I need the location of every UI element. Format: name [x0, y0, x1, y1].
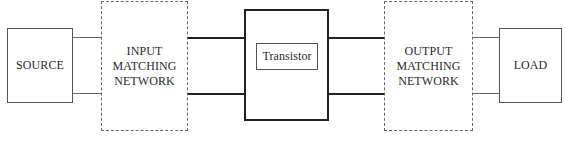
- output-mn-line-2: MATCHING: [396, 59, 460, 74]
- amplifier-block-diagram: SOURCE INPUT MATCHING NETWORK Transistor…: [0, 0, 568, 141]
- wire-output-to-load-top: [472, 37, 500, 38]
- source-label: SOURCE: [16, 58, 64, 73]
- source-block: SOURCE: [7, 28, 73, 103]
- output-mn-line-1: OUTPUT: [396, 44, 460, 59]
- output-mn-line-3: NETWORK: [396, 74, 460, 89]
- wire-output-to-load-bottom: [472, 93, 500, 94]
- transistor-label: Transistor: [262, 49, 311, 64]
- transistor-label-box: Transistor: [256, 43, 318, 70]
- input-matching-network-label: INPUT MATCHING NETWORK: [112, 44, 176, 89]
- load-label: LOAD: [514, 58, 548, 73]
- wire-source-to-input-top: [72, 37, 102, 38]
- transistor-block: Transistor: [244, 9, 329, 121]
- wire-transistor-to-output-top: [328, 37, 385, 39]
- wire-input-to-transistor-bottom: [187, 93, 245, 95]
- input-matching-network-block: INPUT MATCHING NETWORK: [101, 1, 188, 131]
- wire-input-to-transistor-top: [187, 37, 245, 39]
- wire-source-to-input-bottom: [72, 93, 102, 94]
- input-mn-line-1: INPUT: [112, 44, 176, 59]
- wire-transistor-to-output-bottom: [328, 93, 385, 95]
- input-mn-line-2: MATCHING: [112, 59, 176, 74]
- load-block: LOAD: [499, 28, 562, 103]
- output-matching-network-label: OUTPUT MATCHING NETWORK: [396, 44, 460, 89]
- output-matching-network-block: OUTPUT MATCHING NETWORK: [384, 1, 473, 131]
- input-mn-line-3: NETWORK: [112, 74, 176, 89]
